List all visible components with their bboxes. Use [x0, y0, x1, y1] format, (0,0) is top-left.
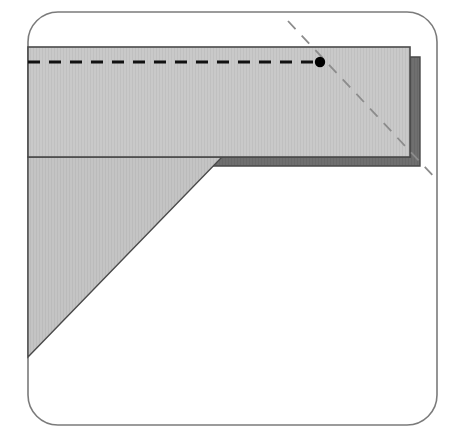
geometric-diagram: [0, 0, 453, 440]
figure-canvas: [0, 0, 453, 440]
intersection-vertex-dot: [315, 57, 325, 67]
